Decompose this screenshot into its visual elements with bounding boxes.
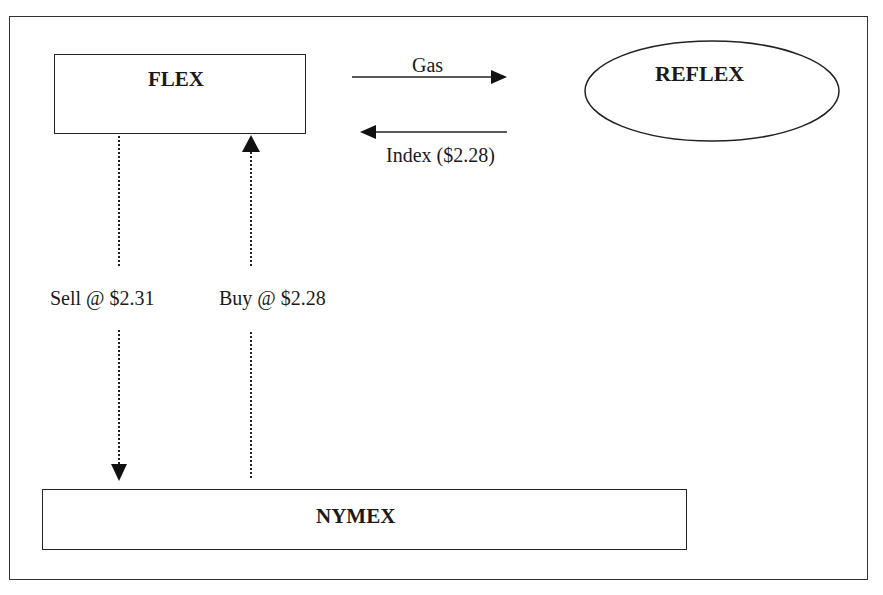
reflex-label: REFLEX bbox=[655, 63, 744, 85]
index-arrowhead-icon bbox=[360, 125, 376, 139]
gas-label: Gas bbox=[412, 54, 443, 76]
buy-label: Buy @ $2.28 bbox=[219, 287, 326, 309]
sell-arrowhead-icon bbox=[111, 464, 127, 481]
gas-arrowhead-icon bbox=[491, 70, 507, 84]
buy-arrowhead-icon bbox=[242, 135, 260, 152]
sell-label: Sell @ $2.31 bbox=[50, 287, 155, 309]
reflex-node bbox=[585, 41, 839, 141]
index-label: Index ($2.28) bbox=[386, 144, 495, 166]
index-arrow bbox=[360, 125, 507, 139]
